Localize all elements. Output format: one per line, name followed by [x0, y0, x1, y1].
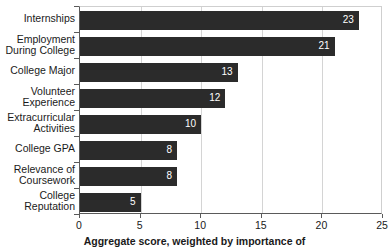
category-label-line: Internships	[24, 13, 75, 25]
bar[interactable]: 21	[80, 37, 335, 56]
bar[interactable]: 12	[80, 89, 225, 108]
x-axis-tick-label: 25	[367, 219, 389, 231]
bar-value-label: 23	[343, 15, 354, 25]
y-axis-tick	[74, 110, 79, 111]
category-label: Relevance ofCoursework	[0, 162, 75, 188]
bar-row: 21	[80, 37, 383, 56]
bar-value-label: 8	[166, 145, 172, 155]
category-label: College Major	[0, 58, 75, 84]
y-axis-tick	[74, 136, 79, 137]
bar-row: 10	[80, 115, 383, 134]
plot-area: 2321131210885	[79, 6, 382, 214]
x-axis-tick-label: 15	[246, 219, 276, 231]
x-axis-tick	[261, 214, 262, 218]
category-label-line: Activities	[34, 123, 75, 135]
x-axis-tick	[79, 214, 80, 218]
y-axis-tick	[74, 58, 79, 59]
y-axis-tick	[74, 84, 79, 85]
x-axis-tick-label: 10	[185, 219, 215, 231]
x-axis-tick-label: 5	[125, 219, 155, 231]
bar-value-label: 13	[221, 67, 232, 77]
x-axis-tick-label: 20	[306, 219, 336, 231]
category-label: ExtracurricularActivities	[0, 110, 75, 136]
y-axis-tick	[74, 6, 79, 7]
bar-value-label: 12	[209, 93, 220, 103]
x-axis-tick	[321, 214, 322, 218]
x-axis-tick	[140, 214, 141, 218]
category-label-line: Reputation	[24, 201, 75, 213]
y-axis-tick	[74, 32, 79, 33]
bar-row: 13	[80, 63, 383, 82]
category-label-line: Experience	[22, 97, 75, 109]
category-label-line: College Major	[10, 65, 75, 77]
category-label: College GPA	[0, 136, 75, 162]
x-axis-tick	[200, 214, 201, 218]
bar[interactable]: 5	[80, 193, 141, 212]
bar[interactable]: 13	[80, 63, 238, 82]
x-axis-title: Aggregate score, weighted by importance …	[0, 235, 389, 247]
category-label: EmploymentDuring College	[0, 32, 75, 58]
category-label-line: College GPA	[15, 143, 75, 155]
category-label: VolunteerExperience	[0, 84, 75, 110]
bar-value-label: 10	[185, 119, 196, 129]
bar-row: 5	[80, 193, 383, 212]
bar-value-label: 21	[318, 41, 329, 51]
y-axis-tick	[74, 162, 79, 163]
category-label: Internships	[0, 6, 75, 32]
bar[interactable]: 8	[80, 167, 177, 186]
category-label: CollegeReputation	[0, 188, 75, 214]
bar-row: 12	[80, 89, 383, 108]
category-label-line: Coursework	[19, 175, 75, 187]
x-axis-tick	[382, 214, 383, 218]
bar-value-label: 8	[166, 171, 172, 181]
bar[interactable]: 8	[80, 141, 177, 160]
bar-row: 8	[80, 167, 383, 186]
bar-value-label: 5	[130, 197, 136, 207]
x-axis-tick-label: 0	[64, 219, 94, 231]
y-axis-tick	[74, 188, 79, 189]
category-axis-labels: InternshipsEmploymentDuring CollegeColle…	[0, 6, 75, 214]
bar[interactable]: 23	[80, 11, 359, 30]
category-label-line: During College	[6, 45, 75, 57]
bar-row: 23	[80, 11, 383, 30]
bar[interactable]: 10	[80, 115, 201, 134]
bar-row: 8	[80, 141, 383, 160]
